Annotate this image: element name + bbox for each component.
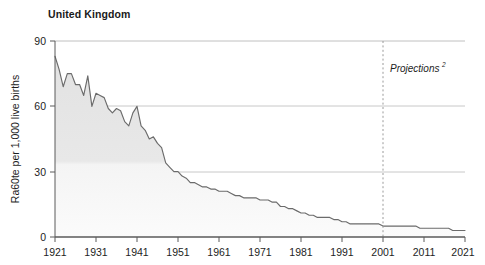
y-tick-label-90: 90 bbox=[34, 35, 46, 47]
x-tick-label-1971: 1971 bbox=[248, 246, 272, 258]
y-tick-label-60: 60 bbox=[34, 100, 46, 112]
x-tick-label-2021: 2021 bbox=[451, 246, 475, 258]
chart-figure: United Kingdom bbox=[0, 0, 485, 265]
x-tick-label-2011: 2011 bbox=[413, 246, 436, 258]
y-tick-marks bbox=[50, 41, 55, 237]
x-tick-label-1931: 1931 bbox=[84, 246, 108, 258]
x-tick-label-1951: 1951 bbox=[166, 246, 190, 258]
projections-superscript: 2 bbox=[441, 61, 446, 68]
x-tick-label-2001: 2001 bbox=[371, 246, 395, 258]
x-tick-label-1921: 1921 bbox=[43, 246, 67, 258]
projections-label: Projections bbox=[390, 63, 439, 74]
x-tick-label-1941: 1941 bbox=[125, 246, 149, 258]
x-tick-label-1981: 1981 bbox=[289, 246, 313, 258]
x-tick-label-1991: 1991 bbox=[330, 246, 354, 258]
area-fill bbox=[55, 56, 465, 237]
x-tick-label-1961: 1961 bbox=[207, 246, 231, 258]
y-axis-title: Ra60te per 1,000 live births bbox=[9, 75, 21, 203]
y-tick-label-0: 0 bbox=[40, 231, 46, 243]
x-tick-marks bbox=[55, 237, 465, 242]
y-tick-label-30: 30 bbox=[34, 166, 46, 178]
infant-mortality-area-chart: 90 60 30 0 Ra60te per 1,000 live births … bbox=[0, 0, 485, 265]
